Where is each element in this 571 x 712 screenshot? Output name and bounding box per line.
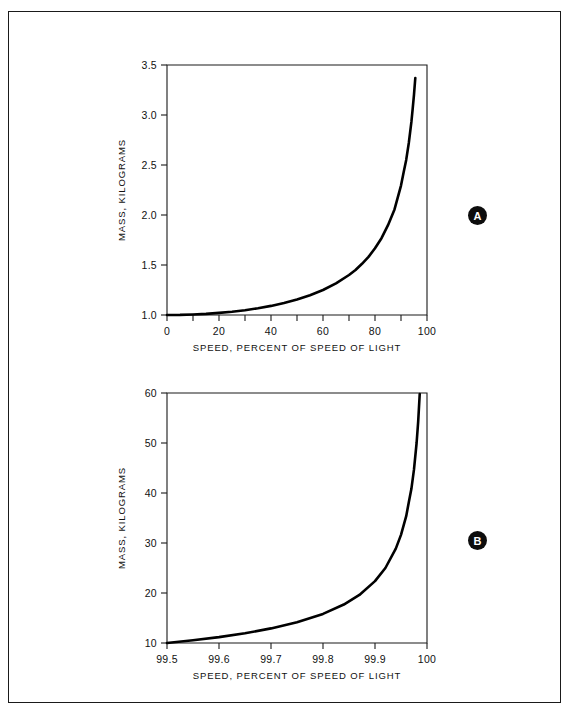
panel-marker-a: A <box>468 206 487 225</box>
panel-marker-b: B <box>468 531 487 550</box>
y-tick-label: 20 <box>145 587 157 599</box>
figure-frame: 1.01.52.02.53.03.5020406080100SPEED, PER… <box>8 11 561 703</box>
x-axis-title: SPEED, PERCENT OF SPEED OF LIGHT <box>193 342 402 353</box>
x-tick-label: 0 <box>164 325 170 337</box>
y-tick-label: 3.0 <box>142 109 158 121</box>
x-tick-label: 60 <box>317 325 329 337</box>
x-tick-label: 99.9 <box>364 653 386 665</box>
x-tick-label: 99.6 <box>208 653 230 665</box>
x-tick-label: 100 <box>418 653 436 665</box>
y-tick-label: 50 <box>145 437 157 449</box>
y-tick-label: 1.0 <box>142 309 158 321</box>
data-curve <box>167 394 420 643</box>
x-axis-title: SPEED, PERCENT OF SPEED OF LIGHT <box>193 670 402 681</box>
plot-frame <box>167 65 427 315</box>
x-tick-label: 20 <box>213 325 225 337</box>
x-tick-label: 99.5 <box>156 653 178 665</box>
chart-a-canvas: 1.01.52.02.53.03.5020406080100SPEED, PER… <box>89 47 489 357</box>
y-tick-label: 1.5 <box>142 259 158 271</box>
chart-b-canvas: 10203040506099.599.699.799.899.9100SPEED… <box>89 377 489 692</box>
x-tick-label: 80 <box>369 325 381 337</box>
y-tick-label: 2.0 <box>142 209 158 221</box>
x-tick-label: 99.8 <box>312 653 334 665</box>
data-curve <box>167 78 415 315</box>
x-tick-label: 99.7 <box>260 653 282 665</box>
y-axis-title: MASS, KILOGRAMS <box>116 467 127 569</box>
y-tick-label: 2.5 <box>142 159 158 171</box>
y-tick-label: 10 <box>145 637 157 649</box>
y-axis-title: MASS, KILOGRAMS <box>116 139 127 241</box>
chart-panel-a: 1.01.52.02.53.03.5020406080100SPEED, PER… <box>89 47 489 357</box>
y-tick-label: 40 <box>145 487 157 499</box>
y-tick-label: 60 <box>145 387 157 399</box>
x-tick-label: 40 <box>265 325 277 337</box>
plot-frame <box>167 393 427 643</box>
y-tick-label: 3.5 <box>142 59 158 71</box>
y-tick-label: 30 <box>145 537 157 549</box>
x-tick-label: 100 <box>418 325 436 337</box>
chart-panel-b: 10203040506099.599.699.799.899.9100SPEED… <box>89 377 489 692</box>
